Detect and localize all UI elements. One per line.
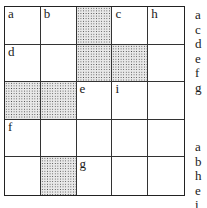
across-clue: c bbox=[195, 23, 202, 38]
grid-cell[interactable]: e bbox=[77, 82, 113, 120]
grid-cell[interactable] bbox=[41, 120, 77, 158]
crossword-grid: abchdeifg bbox=[4, 6, 185, 196]
down-clue: b bbox=[195, 155, 202, 170]
grid-cell[interactable]: d bbox=[5, 45, 41, 83]
across-clue: f bbox=[195, 66, 202, 81]
grid-cell[interactable]: g bbox=[77, 157, 113, 195]
down-clue: i bbox=[195, 198, 202, 208]
cell-label: b bbox=[44, 7, 51, 21]
across-clue: e bbox=[195, 52, 202, 67]
shaded-cell bbox=[112, 45, 148, 83]
grid-cell[interactable]: i bbox=[112, 82, 148, 120]
grid-cell[interactable]: h bbox=[148, 7, 184, 45]
grid-cell[interactable] bbox=[112, 157, 148, 195]
cell-label: i bbox=[115, 82, 119, 96]
down-clue-list: abhei bbox=[195, 140, 202, 208]
grid-cell[interactable] bbox=[148, 120, 184, 158]
down-clue: a bbox=[195, 140, 202, 155]
grid-cell[interactable] bbox=[41, 45, 77, 83]
shaded-cell bbox=[77, 45, 113, 83]
shaded-cell bbox=[5, 82, 41, 120]
down-clue: h bbox=[195, 169, 202, 184]
cell-label: d bbox=[8, 45, 15, 59]
cell-label: a bbox=[8, 7, 14, 21]
grid-cell[interactable] bbox=[5, 157, 41, 195]
grid-cell[interactable] bbox=[148, 157, 184, 195]
across-clue: d bbox=[195, 37, 202, 52]
cell-label: h bbox=[151, 7, 158, 21]
down-clue: e bbox=[195, 184, 202, 199]
grid-cell[interactable]: c bbox=[112, 7, 148, 45]
cell-label: c bbox=[115, 7, 121, 21]
grid-cell[interactable]: f bbox=[5, 120, 41, 158]
grid-cell[interactable]: b bbox=[41, 7, 77, 45]
grid-cell[interactable] bbox=[148, 82, 184, 120]
grid-cell[interactable] bbox=[148, 45, 184, 83]
grid-cell[interactable] bbox=[112, 120, 148, 158]
grid-cell[interactable]: a bbox=[5, 7, 41, 45]
cell-label: g bbox=[80, 157, 87, 171]
cell-label: e bbox=[80, 82, 86, 96]
across-clue: a bbox=[195, 8, 202, 23]
cell-label: f bbox=[8, 120, 12, 134]
shaded-cell bbox=[77, 7, 113, 45]
across-clue: g bbox=[195, 81, 202, 96]
grid-cell[interactable] bbox=[77, 120, 113, 158]
shaded-cell bbox=[41, 82, 77, 120]
shaded-cell bbox=[41, 157, 77, 195]
across-clue-list: acdefg bbox=[195, 8, 202, 95]
